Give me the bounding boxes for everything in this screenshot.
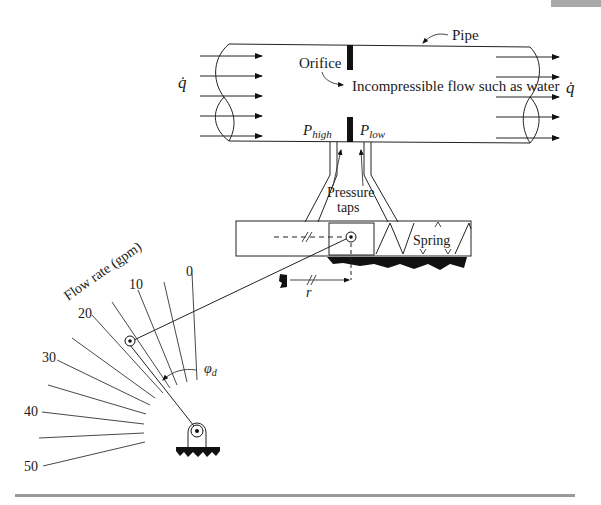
taps-label-line1: Pressure	[327, 185, 374, 200]
flow-meter-diagram: q̇ q̇ Pipe Orifice Incompressible flow s…	[0, 0, 601, 505]
orifice-plate-top	[347, 45, 353, 70]
orifice-pointer-arrow	[322, 72, 343, 85]
flow-description: Incompressible flow such as water	[352, 78, 559, 94]
scale-label-30: 30	[42, 350, 56, 365]
outlet-flow-arrows	[496, 57, 559, 138]
dial-scale	[39, 273, 197, 466]
taps-label-line2: taps	[337, 200, 360, 215]
scale-label-0: 0	[186, 264, 193, 279]
pipe-label: Pipe	[452, 27, 479, 43]
base-pivot	[176, 423, 220, 457]
pipe-pointer-arrow	[423, 34, 448, 43]
dial-labels: 0 10 20 30 40 50	[24, 264, 193, 474]
caption-rule	[15, 494, 575, 497]
scale-label-20: 20	[78, 306, 92, 321]
fixed-wall-icon	[279, 274, 287, 288]
pointer-lever	[130, 345, 194, 426]
pressure-low-label: Plow	[359, 122, 386, 140]
orifice-plate-bottom	[347, 117, 353, 142]
orifice-label: Orifice	[299, 55, 342, 71]
outlet-flow-label: q̇	[566, 78, 575, 97]
inlet-flow-label: q̇	[178, 73, 187, 92]
angle-label: φd	[204, 361, 218, 378]
scale-label-40: 40	[24, 404, 38, 419]
lever-pivot-dot	[128, 339, 132, 343]
scale-label-50: 50	[24, 459, 38, 474]
pressure-high-label: Phigh	[302, 122, 332, 140]
dial-axis-label: Flow rate (gpm)	[61, 239, 145, 304]
piston-pivot-dot	[349, 235, 353, 239]
page-tab	[551, 0, 601, 7]
spring-label: Spring	[413, 233, 450, 248]
scale-label-10: 10	[129, 277, 143, 292]
inlet-flow-arrows	[200, 56, 262, 136]
radius-label: r	[306, 285, 312, 300]
angle-arc-arrow	[163, 369, 196, 380]
